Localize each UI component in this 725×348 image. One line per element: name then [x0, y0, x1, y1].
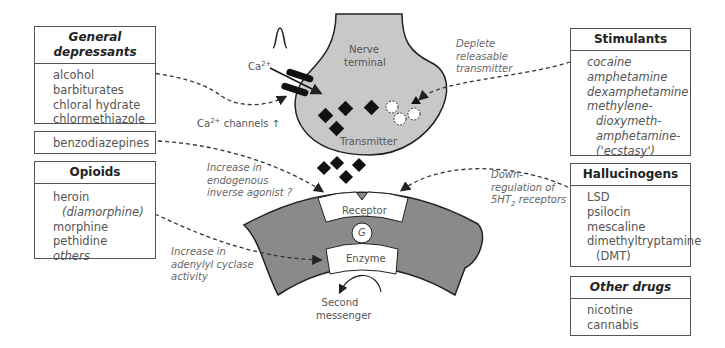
drug-item: chloral hydrate [53, 98, 155, 113]
drug-item: chlormethiazole [53, 112, 155, 127]
drug-item: (diamorphine) [53, 205, 155, 220]
action-potential-icon [273, 28, 287, 48]
g-protein-label: G [358, 227, 366, 240]
channels-text: channels [220, 118, 268, 129]
other-drugs-box: Other drugs nicotine cannabis [570, 276, 691, 336]
second-messenger-label: Second messenger [316, 297, 364, 322]
stimulants-title: Stimulants [571, 29, 690, 51]
drug-item: pethidine [53, 234, 155, 249]
label-line: inverse agonist ? [207, 187, 292, 200]
label-line: transmitter [456, 63, 512, 76]
nerve-terminal [295, 14, 446, 155]
label-line: activity [171, 271, 254, 284]
label-line: endogenous [207, 175, 292, 188]
benzodiazepines-box: benzodiazepines [34, 131, 156, 154]
ca-channels-label: Ca2+ channels ↑ [197, 115, 280, 131]
drug-item: alcohol [53, 68, 155, 83]
label-line: Nerve [344, 44, 384, 57]
receptor-label: Receptor [342, 205, 387, 218]
ca-superscript: 2+ [261, 60, 271, 68]
drug-item: dimethyltryptamine [587, 234, 690, 249]
drug-item: nicotine [587, 303, 690, 318]
drug-item: amphetamine [587, 70, 690, 85]
label-text: 5HT [491, 194, 511, 205]
opioids-title: Opioids [35, 162, 155, 184]
up-arrow-icon: ↑ [272, 118, 280, 129]
drug-item: benzodiazepines [53, 136, 149, 150]
drug-item: ('ecstasy') [587, 144, 690, 159]
drug-item: LSD [587, 190, 690, 205]
label-line: adenylyl cyclase [171, 259, 254, 272]
ca-text: Ca [248, 61, 261, 72]
released-transmitter [317, 156, 366, 184]
drug-item: heroin [53, 190, 155, 205]
deplete-label: Deplete releasable transmitter [456, 38, 512, 76]
enzyme-label: Enzyme [346, 253, 386, 266]
label-line: Increase in [207, 162, 292, 175]
title-line: depressants [37, 45, 153, 60]
drug-item: psilocin [587, 205, 690, 220]
drug-item: amphetamine- [587, 129, 690, 144]
general-depressants-title: General depressants [35, 27, 155, 64]
title-line: General [37, 30, 153, 45]
ca-text: Ca [197, 118, 210, 129]
label-line: messenger [316, 310, 364, 323]
ca-superscript: 2+ [210, 117, 220, 125]
inverse-agonist-label: Increase in endogenous inverse agonist ? [207, 162, 292, 200]
drug-item: methylene- [587, 99, 690, 114]
drug-item: others [53, 249, 155, 264]
adenylyl-cyclase-label: Increase in adenylyl cyclase activity [171, 246, 254, 284]
other-drugs-title: Other drugs [571, 277, 690, 299]
second-messenger-arrow [340, 275, 381, 292]
drug-item: dexamphetamine [587, 85, 690, 100]
drug-item: dioxymeth- [587, 114, 690, 129]
general-depressants-box: General depressants alcohol barbiturates… [34, 26, 156, 124]
ca-ion-label: Ca2+ [248, 58, 271, 74]
label-line: Down- [491, 169, 566, 182]
label-text: receptors [515, 194, 566, 205]
drug-item: mescaline [587, 220, 690, 235]
nerve-terminal-label: Nerve terminal [344, 44, 384, 69]
drug-item: (DMT) [587, 249, 690, 264]
ca-channel-top [285, 68, 314, 83]
hallucinogens-title: Hallucinogens [571, 164, 690, 186]
downregulation-label: Down- regulation of 5HT2 receptors [491, 169, 566, 211]
drug-item: cannabis [587, 318, 690, 333]
label-line: regulation of [491, 182, 566, 195]
label-line: 5HT2 receptors [491, 194, 566, 211]
stimulants-box: Stimulants cocaine amphetamine dexamphet… [570, 28, 691, 156]
drug-item: cocaine [587, 55, 690, 70]
label-line: Second [316, 297, 364, 310]
drug-item: morphine [53, 220, 155, 235]
opioids-box: Opioids heroin (diamorphine) morphine pe… [34, 161, 156, 259]
label-line: Deplete [456, 38, 512, 51]
label-line: releasable [456, 51, 512, 64]
label-line: Increase in [171, 246, 254, 259]
transmitter-label: Transmitter [340, 136, 397, 149]
hallucinogens-box: Hallucinogens LSD psilocin mescaline dim… [570, 163, 691, 267]
label-line: terminal [344, 57, 384, 70]
drug-item: barbiturates [53, 83, 155, 98]
